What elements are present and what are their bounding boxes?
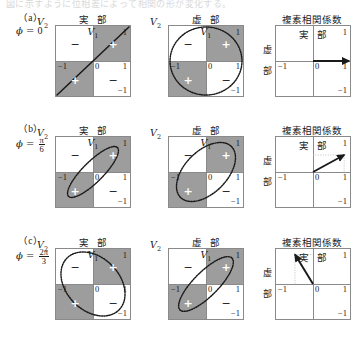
row1-imag-tick-origin: 0 xyxy=(208,62,212,71)
row1-corr-tick-x-left: −1 xyxy=(278,62,287,71)
row2-imag-panel-title: 虚 部 xyxy=(168,123,244,137)
figure-row-1: （a）ϕ = 0実 部−++−1−1−101V2V1虚 部−++−1−1−101… xyxy=(0,10,359,121)
row3-real-tick-y-bottom: −1 xyxy=(118,309,127,318)
figure-complex-correlation: （a）ϕ = 0実 部−++−1−1−101V2V1虚 部−++−1−1−101… xyxy=(0,8,359,351)
phi-fraction-denominator: 6 xyxy=(39,144,45,154)
row1-real-tick-origin: 0 xyxy=(95,62,99,71)
row2-real-sign-upper-left: − xyxy=(70,150,79,161)
row3-imag-y-axis-label: V2 xyxy=(150,239,161,253)
row3-real-sign-lower-right: − xyxy=(108,298,117,309)
row3-imag-tick-x-left: −1 xyxy=(171,285,180,294)
phi-symbol: ϕ = xyxy=(16,25,38,36)
row1-real-sign-upper-left: − xyxy=(70,39,79,50)
row1-real-tick-y-bottom: −1 xyxy=(118,86,127,95)
row2-real-tick-y-bottom: −1 xyxy=(118,197,127,206)
row2-corr-x-axis-label: 実 部 xyxy=(275,138,351,152)
row1-corr-tick-x-right: 1 xyxy=(343,62,347,71)
row1-real-sign-lower-left: + xyxy=(70,75,79,86)
phi-fraction-denominator: 3 xyxy=(39,256,50,266)
row3-imag-x-axis-label: V1 xyxy=(168,249,244,263)
figure-row-2: （b）ϕ = π6実 部−++−1−1−101V2V1虚 部−++−1−1−10… xyxy=(0,121,359,232)
row1-imag-sign-lower-right: − xyxy=(221,75,230,86)
row2-imag-sign-upper-left: − xyxy=(183,150,192,161)
row1-imag-tick-x-right: 1 xyxy=(236,62,240,71)
row1-real-tick-x-left: −1 xyxy=(58,62,67,71)
row3-corr-x-axis-label: 実 部 xyxy=(275,250,351,264)
row2-corr-y-axis-label: 虚部 xyxy=(261,136,273,208)
row2-imag-sign-upper-right: + xyxy=(221,150,230,161)
row2-imag-sign-lower-right: − xyxy=(221,186,230,197)
row2-corr-tick-y-bottom: −1 xyxy=(338,197,347,206)
row3-imag-sign-upper-right: + xyxy=(221,262,230,273)
row2-real-tick-x-left: −1 xyxy=(58,173,67,182)
row2-real-x-axis-label: V1 xyxy=(55,137,131,151)
row1-corr-panel-title: 複素相関係数 xyxy=(274,12,350,26)
row2-corr-tick-x-left: −1 xyxy=(278,173,287,182)
row2-imag-tick-x-right: 1 xyxy=(236,173,240,182)
row2-real-y-axis-label: V2 xyxy=(37,127,48,141)
row3-corr-tick-origin: 0 xyxy=(315,285,319,294)
row1-imag-x-axis-label: V1 xyxy=(168,26,244,40)
row2-corr-y-axis-label-char1: 虚 xyxy=(263,157,272,166)
row1-real-y-axis-label: V2 xyxy=(37,16,48,30)
row1-corr-tick-origin: 0 xyxy=(315,62,319,71)
row2-real-panel-title: 実 部 xyxy=(55,123,131,137)
row3-real-x-axis-label: V1 xyxy=(55,249,131,263)
row1-real-sign-lower-right: − xyxy=(108,75,117,86)
row3-real-panel-title: 実 部 xyxy=(55,235,131,249)
row2-imag-tick-x-left: −1 xyxy=(171,173,180,182)
row3-corr-y-axis-label-char2: 部 xyxy=(263,290,272,299)
row3-real-y-axis-label: V2 xyxy=(37,239,48,253)
row2-real-sign-upper-right: + xyxy=(108,150,117,161)
row1-imag-sign-upper-left: − xyxy=(183,39,192,50)
row3-corr-y-axis-label-char1: 虚 xyxy=(263,269,272,278)
row2-corr-panel-title: 複素相関係数 xyxy=(274,123,350,137)
row2-imag-y-axis-label: V2 xyxy=(150,127,161,141)
row3-real-sign-upper-right: + xyxy=(108,262,117,273)
row2-real-sign-lower-right: − xyxy=(108,186,117,197)
row3-real-tick-origin: 0 xyxy=(95,285,99,294)
row3-corr-panel-title: 複素相関係数 xyxy=(274,235,350,249)
row2-corr-y-axis-label-char2: 部 xyxy=(263,178,272,187)
cutoff-text-line: 図に示すように位相差によって相関の形が変化する。 xyxy=(0,0,359,8)
row1-real-x-axis-label: V1 xyxy=(55,26,131,40)
row3-imag-tick-y-bottom: −1 xyxy=(231,309,240,318)
row3-imag-sign-upper-left: − xyxy=(183,262,192,273)
figure-row-3: （c）ϕ = 2π3実 部−++−1−1−101V2V1虚 部−++−1−1−1… xyxy=(0,233,359,344)
row3-real-sign-lower-left: + xyxy=(70,298,79,309)
row1-imag-tick-x-left: −1 xyxy=(171,62,180,71)
row1-imag-sign-upper-right: + xyxy=(221,39,230,50)
row1-corr-tick-y-bottom: −1 xyxy=(338,86,347,95)
row3-imag-panel-title: 虚 部 xyxy=(168,235,244,249)
row2-corr-tick-origin: 0 xyxy=(315,173,319,182)
row2-imag-tick-origin: 0 xyxy=(208,173,212,182)
row1-imag-y-axis-label: V2 xyxy=(150,16,161,30)
row1-corr-y-axis-label: 虚部 xyxy=(261,25,273,97)
row1-imag-panel-title: 虚 部 xyxy=(168,12,244,26)
row2-real-tick-x-right: 1 xyxy=(123,173,127,182)
row3-imag-sign-lower-left: + xyxy=(183,298,192,309)
row3-corr-tick-y-bottom: −1 xyxy=(338,309,347,318)
row3-imag-sign-lower-right: − xyxy=(221,298,230,309)
row3-corr-y-axis-label: 虚部 xyxy=(261,248,273,320)
row2-real-tick-origin: 0 xyxy=(95,173,99,182)
row2-real-sign-lower-left: + xyxy=(70,186,79,197)
row3-corr-tick-x-right: 1 xyxy=(343,285,347,294)
row2-imag-sign-lower-left: + xyxy=(183,186,192,197)
row1-imag-tick-y-bottom: −1 xyxy=(231,86,240,95)
phi-symbol: ϕ = xyxy=(16,138,38,149)
row1-real-tick-x-right: 1 xyxy=(123,62,127,71)
row1-real-panel-title: 実 部 xyxy=(55,12,131,26)
row2-imag-x-axis-label: V1 xyxy=(168,137,244,151)
row1-corr-y-axis-label-char2: 部 xyxy=(263,67,272,76)
row3-corr-tick-x-left: −1 xyxy=(278,285,287,294)
row1-imag-sign-lower-left: + xyxy=(183,75,192,86)
row3-real-tick-x-right: 1 xyxy=(123,285,127,294)
row3-real-tick-x-left: −1 xyxy=(58,285,67,294)
row3-imag-tick-x-right: 1 xyxy=(236,285,240,294)
row1-real-sign-upper-right: + xyxy=(108,39,117,50)
phi-symbol: ϕ = xyxy=(16,250,38,261)
row1-corr-y-axis-label-char1: 虚 xyxy=(263,46,272,55)
row2-corr-tick-x-right: 1 xyxy=(343,173,347,182)
row1-corr-x-axis-label: 実 部 xyxy=(275,27,351,41)
